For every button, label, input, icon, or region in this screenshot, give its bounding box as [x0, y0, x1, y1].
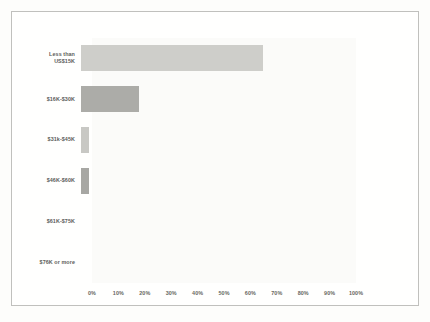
category-label: $76K or more: [12, 259, 75, 266]
bar-track: [81, 161, 345, 202]
x-tick-label: 100%: [341, 290, 371, 296]
bar-row: $61K-$75K: [12, 201, 420, 242]
bar: [81, 86, 139, 112]
bar-track: [81, 201, 345, 242]
bar-track: [81, 79, 345, 120]
chart-figure: Less than US$15K$16K-$30K$31k-$45K$46K-$…: [0, 0, 430, 322]
bar-row: $46K-$60K: [12, 161, 420, 202]
bar: [81, 127, 89, 153]
category-label: $31k-$45K: [12, 136, 75, 143]
bar-rows-container: Less than US$15K$16K-$30K$31k-$45K$46K-$…: [12, 38, 420, 283]
category-label: Less than US$15K: [12, 51, 75, 65]
bar-track: [81, 38, 345, 79]
bar-row: $16K-$30K: [12, 79, 420, 120]
bar-row: $76K or more: [12, 242, 420, 283]
bar-row: Less than US$15K: [12, 38, 420, 79]
bar: [81, 45, 263, 71]
bar: [81, 168, 89, 194]
bar-track: [81, 120, 345, 161]
x-axis-tick-labels: 0%10%20%30%40%50%60%70%80%90%100%: [81, 290, 345, 302]
category-label: $16K-$30K: [12, 96, 75, 103]
bar-track: [81, 242, 345, 283]
category-label: $61K-$75K: [12, 218, 75, 225]
category-label: $46K-$60K: [12, 177, 75, 184]
bar-row: $31k-$45K: [12, 120, 420, 161]
chart-frame: Less than US$15K$16K-$30K$31k-$45K$46K-$…: [11, 11, 419, 306]
